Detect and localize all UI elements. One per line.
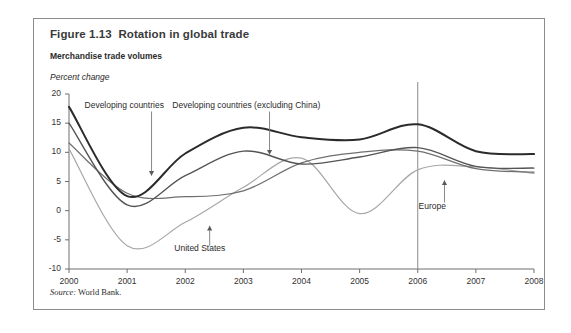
- source-note: Source: World Bank.: [50, 287, 121, 297]
- annotation-arrowhead: [267, 150, 272, 155]
- x-axis-tick-label: 2003: [223, 276, 263, 286]
- figure-panel: Figure 1.13 Rotation in global trade Mer…: [33, 18, 545, 310]
- source-value: World Bank.: [76, 287, 121, 297]
- annotation-label: Developing countries (excluding China): [172, 100, 320, 110]
- x-axis-tick-label: 2002: [165, 276, 205, 286]
- x-axis-tick-label: 2008: [514, 276, 554, 286]
- annotation-label: Europe: [419, 201, 446, 211]
- y-axis-tick-label: 15: [35, 117, 61, 127]
- y-axis-tick-label: 20: [35, 88, 61, 98]
- series-line: [69, 123, 534, 206]
- y-axis-tick-label: -5: [35, 234, 61, 244]
- annotation-label: Developing countries: [85, 100, 164, 110]
- x-axis-tick-label: 2001: [107, 276, 147, 286]
- annotation-arrowhead: [442, 180, 447, 185]
- y-axis-tick-label: 0: [35, 205, 61, 215]
- x-axis-tick-label: 2000: [49, 276, 89, 286]
- source-label: Source:: [50, 287, 76, 297]
- x-axis-tick-label: 2006: [398, 276, 438, 286]
- line-chart: -10-505101520200020012002200320042005200…: [34, 19, 546, 311]
- x-axis-tick-label: 2005: [340, 276, 380, 286]
- annotation-label: United States: [174, 243, 225, 253]
- chart-canvas: [34, 19, 546, 311]
- y-axis-tick-label: 10: [35, 146, 61, 156]
- x-axis-tick-label: 2007: [456, 276, 496, 286]
- annotation-arrowhead: [207, 226, 212, 231]
- x-axis-tick-label: 2004: [282, 276, 322, 286]
- annotation-arrowhead: [149, 171, 154, 176]
- series-line: [69, 107, 534, 197]
- series-line: [69, 143, 534, 199]
- y-axis-tick-label: -10: [35, 263, 61, 273]
- y-axis-tick-label: 5: [35, 176, 61, 186]
